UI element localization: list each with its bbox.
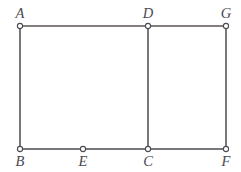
- vertex-label-B: B: [16, 153, 25, 169]
- geometry-figure: A D G B E C F: [0, 0, 241, 172]
- vertex-marker-B: [17, 146, 22, 151]
- vertex-marker-C: [145, 146, 150, 151]
- vertex-marker-A: [17, 23, 22, 28]
- vertex-marker-F: [223, 146, 228, 151]
- vertex-label-group: A D G B E C F: [15, 5, 232, 169]
- geometry-canvas: A D G B E C F: [0, 0, 241, 172]
- vertex-label-G: G: [221, 5, 232, 21]
- vertex-label-F: F: [221, 153, 231, 169]
- vertex-label-D: D: [142, 5, 154, 21]
- vertex-marker-E: [80, 146, 85, 151]
- vertex-marker-group: [17, 23, 228, 151]
- vertex-marker-G: [223, 23, 228, 28]
- vertex-label-E: E: [78, 153, 88, 169]
- vertex-marker-D: [145, 23, 150, 28]
- edge-group: [20, 26, 226, 149]
- vertex-label-C: C: [143, 153, 153, 169]
- vertex-label-A: A: [15, 5, 25, 21]
